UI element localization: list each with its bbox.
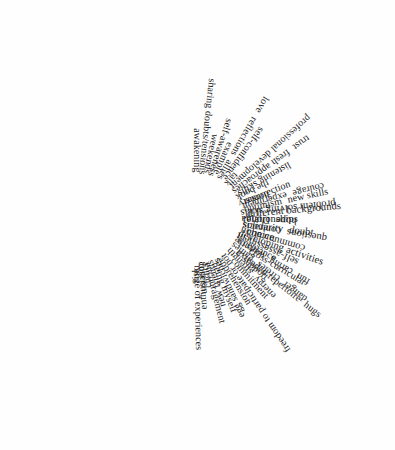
cloud-word: hugs (302, 298, 324, 319)
cloud-word: risk (190, 268, 202, 284)
cloud-word: love (253, 94, 271, 115)
radial-word-field: awakeningsharing doubts/tensionsweekends… (0, 0, 395, 450)
word-spoke: risk (190, 268, 202, 284)
word-cloud-figure: awakeningsharing doubts/tensionsweekends… (0, 0, 395, 450)
